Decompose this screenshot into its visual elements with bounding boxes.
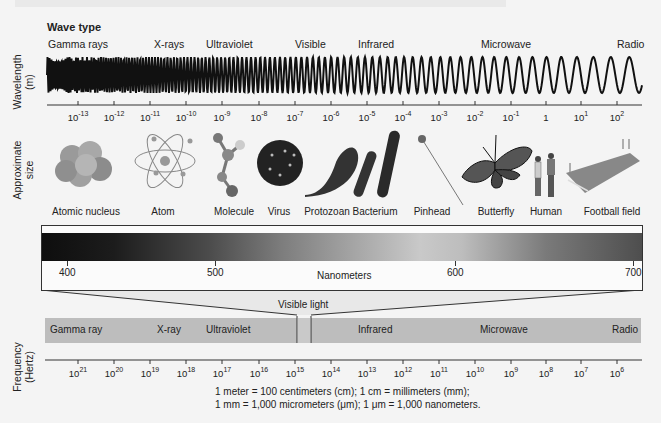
tick-base: 10 (610, 368, 621, 379)
tick-base: 10 (69, 368, 80, 379)
tick-base: 10 (430, 368, 441, 379)
tick-exponent: 13 (368, 366, 376, 373)
tick-base: 10 (250, 368, 261, 379)
tick-base: 10 (358, 368, 369, 379)
tick-base: 10 (394, 368, 405, 379)
tick-base: 10 (574, 368, 585, 379)
frequency-tick: 108 (539, 366, 553, 379)
tick-exponent: 14 (332, 366, 340, 373)
frequency-tick: 1013 (358, 366, 376, 379)
frequency-band-label: Ultraviolet (206, 324, 250, 335)
tick-base: 10 (177, 368, 188, 379)
frequency-tick: 107 (574, 366, 588, 379)
frequency-band-label: Gamma ray (50, 324, 102, 335)
tick-base: 10 (141, 368, 152, 379)
frequency-tick: 1012 (394, 366, 412, 379)
tick-base: 10 (539, 368, 550, 379)
tick-exponent: 17 (223, 366, 231, 373)
frequency-tick: 1014 (322, 366, 340, 379)
frequency-band-label: X-ray (157, 324, 181, 335)
tick-exponent: 10 (476, 366, 484, 373)
frequency-tick: 106 (610, 366, 624, 379)
frequency-tick: 109 (504, 366, 518, 379)
tick-exponent: 15 (296, 366, 304, 373)
frequency-tick: 1018 (177, 366, 195, 379)
tick-base: 10 (286, 368, 297, 379)
tick-exponent: 11 (441, 366, 448, 373)
tick-base: 10 (504, 368, 515, 379)
footnote-line-2: 1 mm = 1,000 micrometers (μm); 1 μm = 1,… (215, 398, 481, 411)
tick-base: 10 (322, 368, 333, 379)
frequency-tick: 1017 (213, 366, 231, 379)
tick-exponent: 16 (260, 366, 268, 373)
frequency-band-label: Infrared (358, 324, 392, 335)
tick-exponent: 9 (514, 366, 518, 373)
frequency-band-label: Microwave (480, 324, 528, 335)
tick-exponent: 20 (115, 366, 123, 373)
tick-exponent: 7 (584, 366, 588, 373)
frequency-tick: 1010 (466, 366, 484, 379)
frequency-tick: 1021 (69, 366, 87, 379)
tick-exponent: 18 (187, 366, 195, 373)
visible-notch (0, 0, 661, 423)
frequency-tick: 1016 (250, 366, 268, 379)
frequency-tick: 1019 (141, 366, 159, 379)
tick-exponent: 19 (151, 366, 159, 373)
notch-fill (298, 318, 310, 343)
tick-base: 10 (105, 368, 116, 379)
footnote-line-1: 1 meter = 100 centimeters (cm); 1 cm = m… (215, 385, 481, 398)
frequency-band-label: Radio (612, 324, 638, 335)
tick-exponent: 21 (79, 366, 87, 373)
tick-exponent: 8 (549, 366, 553, 373)
tick-exponent: 12 (404, 366, 412, 373)
frequency-tick: 1011 (430, 366, 448, 379)
tick-exponent: 6 (620, 366, 624, 373)
frequency-tick: 1020 (105, 366, 123, 379)
tick-base: 10 (466, 368, 477, 379)
frequency-tick: 1015 (286, 366, 304, 379)
tick-base: 10 (213, 368, 224, 379)
unit-footnote: 1 meter = 100 centimeters (cm); 1 cm = m… (215, 385, 481, 411)
